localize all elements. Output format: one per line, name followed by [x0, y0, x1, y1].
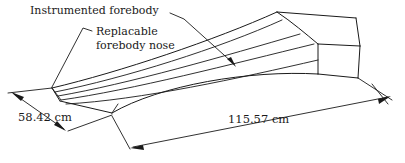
- replacable-nose-label-line1: Replacable: [96, 25, 158, 38]
- rear-base-right-edge: [358, 46, 360, 78]
- length-extension-right: [358, 78, 392, 100]
- rear-top-edge: [277, 12, 356, 18]
- chine-lines: [52, 20, 318, 113]
- chine-line-3: [61, 44, 314, 100]
- forebody-model-diagram: Instrumented forebody Replacable forebod…: [0, 0, 405, 163]
- instrumented-forebody-leader-line: [170, 13, 234, 64]
- width-extension-lower: [68, 115, 112, 131]
- length-dimension-label: 115.57 cm: [228, 112, 289, 126]
- nose-panel-tie-a: [52, 88, 61, 100]
- instrumented-forebody-arrowhead: [227, 57, 236, 67]
- replacable-nose-leader-line: [52, 28, 92, 87]
- chine-line-2: [58, 34, 300, 96]
- chine-line-4: [66, 60, 318, 104]
- width-dimension-label: 58.42 cm: [18, 110, 72, 124]
- rear-bottom-edge: [318, 74, 358, 78]
- length-extension-left: [112, 116, 130, 149]
- rear-top-face-edge: [318, 44, 360, 46]
- instrumented-forebody-label: Instrumented forebody: [30, 4, 159, 17]
- rear-upper-right-edge: [356, 18, 360, 46]
- replacable-nose-leader: [52, 28, 92, 87]
- lower-side-edge: [112, 73, 318, 113]
- width-extension-upper: [8, 88, 52, 93]
- chine-line-1: [55, 20, 282, 92]
- replacable-nose-label-line2: forebody nose: [96, 39, 175, 52]
- length-arrowhead-left: [130, 145, 144, 150]
